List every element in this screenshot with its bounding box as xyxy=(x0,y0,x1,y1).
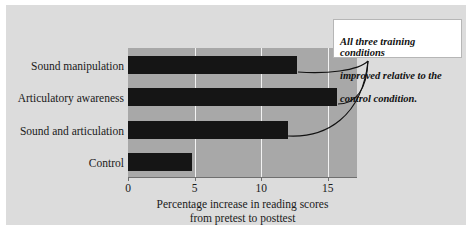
figure-panel: Sound manipulationArticulatory awareness… xyxy=(6,5,466,225)
x-tick-label: 0 xyxy=(113,182,143,195)
x-axis-title-line-1: Percentage increase in reading scores xyxy=(128,198,357,212)
bar xyxy=(128,121,288,139)
category-label: Sound manipulation xyxy=(6,60,124,72)
x-axis-title-line-2: from pretest to posttest xyxy=(128,212,357,226)
annotation-text-line-2: improved relative to the xyxy=(340,70,456,82)
annotation-text-line-3: control condition. xyxy=(340,93,456,105)
category-label: Control xyxy=(6,157,124,169)
x-tick-mark xyxy=(261,177,262,181)
x-tick-mark xyxy=(195,177,196,181)
x-tick-label: 15 xyxy=(313,182,343,195)
annotation-text: All three training conditions improved r… xyxy=(340,24,456,116)
x-tick-mark xyxy=(128,177,129,181)
x-tick-label: 10 xyxy=(246,182,276,195)
category-label: Sound and articulation xyxy=(6,125,124,137)
bar xyxy=(128,153,192,171)
category-label: Articulatory awareness xyxy=(6,92,124,104)
x-tick-label: 5 xyxy=(180,182,210,195)
plot-area xyxy=(128,48,357,177)
category-axis-labels: Sound manipulationArticulatory awareness… xyxy=(6,48,124,177)
x-tick-mark xyxy=(328,177,329,181)
gridline-15 xyxy=(328,48,329,177)
x-axis-title: Percentage increase in reading scores fr… xyxy=(128,198,357,225)
x-axis-line xyxy=(128,177,357,178)
annotation-text-line-1: All three training conditions xyxy=(340,36,456,59)
bar xyxy=(128,56,297,74)
figure-root: Sound manipulationArticulatory awareness… xyxy=(0,0,471,242)
annotation-callout: All three training conditions improved r… xyxy=(333,19,462,58)
bar xyxy=(128,88,337,106)
